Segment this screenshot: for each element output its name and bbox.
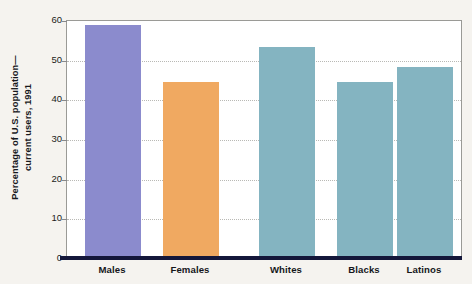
tick-mark-y-30 (62, 140, 67, 141)
y-axis-title-line-2: current users, 1991 (22, 84, 32, 171)
x-tick-label-whites: Whites (246, 264, 326, 275)
y-axis-title-text: Percentage of U.S. population— current u… (9, 15, 34, 241)
y-tick-label-0: 0 (36, 253, 62, 263)
x-tick-label-latinos: Latinos (384, 264, 464, 275)
bar-latinos (397, 67, 453, 259)
y-tick-label-40: 40 (36, 94, 62, 104)
x-axis-baseline (60, 256, 462, 260)
y-axis-title-line-1: Percentage of U.S. population— (10, 55, 20, 200)
bar-females (163, 82, 219, 259)
y-tick-label-20: 20 (36, 174, 62, 184)
plot-inner (67, 21, 461, 259)
y-axis-tick-labels: 0102030405060 (36, 14, 62, 264)
y-axis-title: Percentage of U.S. population— current u… (0, 0, 40, 262)
tick-mark-y-50 (62, 61, 67, 62)
x-tick-label-males: Males (72, 264, 152, 275)
y-tick-label-50: 50 (36, 55, 62, 65)
y-tick-label-10: 10 (36, 213, 62, 223)
y-tick-label-30: 30 (36, 134, 62, 144)
tick-mark-y-60 (62, 21, 67, 22)
y-tick-label-60: 60 (36, 15, 62, 25)
tick-mark-y-20 (62, 180, 67, 181)
x-axis-category-labels: MalesFemalesWhitesBlacksLatinos (66, 264, 460, 282)
bar-chart-figure: Percentage of U.S. population— current u… (0, 0, 472, 284)
bar-males (85, 25, 141, 259)
bar-blacks (337, 82, 393, 259)
tick-mark-y-10 (62, 219, 67, 220)
x-tick-label-females: Females (150, 264, 230, 275)
plot-area (66, 20, 462, 259)
bar-whites (259, 47, 315, 259)
tick-mark-y-40 (62, 100, 67, 101)
